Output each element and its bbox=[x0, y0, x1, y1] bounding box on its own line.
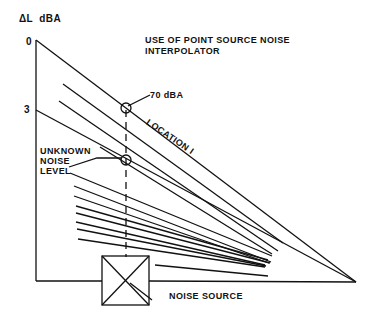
leader-70dba bbox=[128, 95, 150, 106]
diagram-title-line1: USE OF POINT SOURCE NOISE bbox=[145, 35, 290, 45]
tick-label-0: 0 bbox=[26, 37, 32, 47]
noise-source-label: NOISE SOURCE bbox=[169, 291, 243, 301]
tick-label-3: 3 bbox=[24, 105, 30, 115]
axis-label: ΔL dBA bbox=[19, 14, 61, 24]
known-level-label: 70 dBA bbox=[150, 90, 183, 100]
unknown-label-line3: LEVEL bbox=[40, 166, 71, 176]
diagram-title-line2: INTERPOLATOR bbox=[145, 46, 220, 56]
unknown-label-line1: UNKNOWN bbox=[40, 146, 91, 156]
leader-unknown bbox=[69, 158, 121, 167]
baseline-right bbox=[149, 281, 356, 282]
line-0dba bbox=[36, 40, 356, 282]
interpolation-lines bbox=[59, 84, 283, 276]
unknown-label-line2: NOISE bbox=[40, 156, 70, 166]
